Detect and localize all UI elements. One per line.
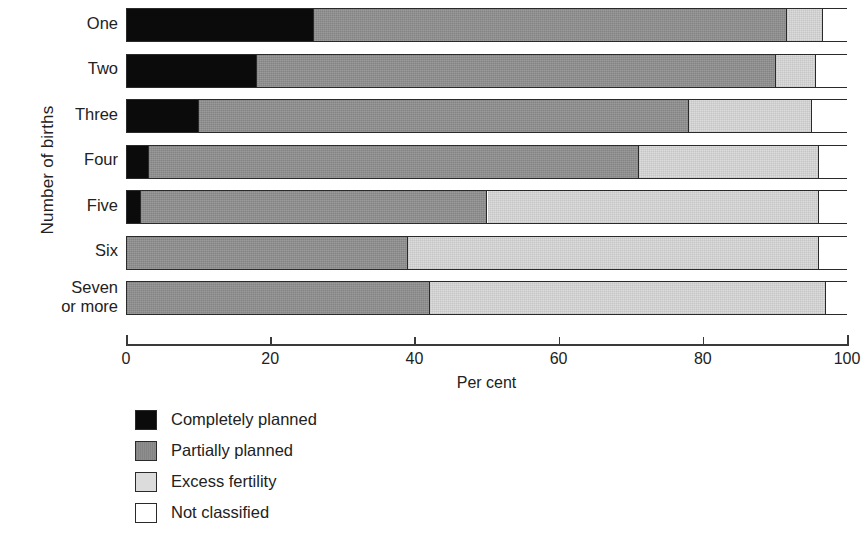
bar-segment-partially-planned	[314, 9, 786, 41]
x-axis-line	[126, 344, 847, 346]
legend-item: Partially planned	[135, 435, 317, 466]
y-axis-label-two: Two	[0, 60, 118, 78]
x-tick-label-40: 40	[405, 350, 423, 368]
legend-label: Completely planned	[171, 410, 317, 429]
legend-item: Not classified	[135, 497, 317, 528]
bar-row	[126, 99, 847, 133]
bar-row	[126, 145, 847, 179]
bar-segment-partially-planned	[141, 191, 487, 223]
plot-area	[126, 8, 847, 328]
stacked-bar	[126, 145, 847, 179]
bar-segment-excess-fertility	[488, 191, 820, 223]
bar-row	[126, 190, 847, 224]
bar-segment-completely-planned	[127, 191, 141, 223]
legend-label: Partially planned	[171, 441, 293, 460]
x-tick-label-80: 80	[694, 350, 712, 368]
bar-row	[126, 54, 847, 88]
stacked-bar	[126, 8, 847, 42]
bar-segment-not-classified	[816, 55, 848, 87]
bar-segment-partially-planned	[127, 237, 408, 269]
y-axis-label-three: Three	[0, 106, 118, 124]
legend-item: Excess fertility	[135, 466, 317, 497]
stacked-bar	[126, 54, 847, 88]
legend-label: Excess fertility	[171, 472, 276, 491]
stacked-bar	[126, 99, 847, 133]
legend-swatch-partially	[135, 441, 157, 461]
x-tick-label-60: 60	[550, 350, 568, 368]
bar-segment-not-classified	[819, 146, 848, 178]
bar-segment-excess-fertility	[689, 100, 812, 132]
bar-segment-not-classified	[826, 282, 848, 314]
bar-segment-not-classified	[823, 9, 848, 41]
legend-swatch-completely	[135, 410, 157, 430]
x-tick-0	[126, 335, 128, 346]
bar-segment-excess-fertility	[787, 9, 823, 41]
bar-segment-excess-fertility	[639, 146, 819, 178]
legend-swatch-notclass	[135, 503, 157, 523]
stacked-bar-chart: Number of births OneTwoThreeFourFiveSixS…	[0, 0, 868, 550]
bar-segment-excess-fertility	[430, 282, 827, 314]
bar-row	[126, 8, 847, 42]
bar-row	[126, 236, 847, 270]
x-tick-label-20: 20	[261, 350, 279, 368]
y-axis-label-one: One	[0, 15, 118, 33]
bar-segment-partially-planned	[149, 146, 639, 178]
stacked-bar	[126, 281, 847, 315]
y-axis-label-seven-or-more: Sevenor more	[0, 278, 118, 316]
y-axis-label-six: Six	[0, 242, 118, 260]
x-tick-100	[847, 335, 849, 346]
legend-item: Completely planned	[135, 404, 317, 435]
bar-segment-excess-fertility	[776, 55, 816, 87]
x-tick-label-100: 100	[834, 350, 861, 368]
x-axis-title: Per cent	[126, 374, 847, 392]
y-axis-label-five: Five	[0, 197, 118, 215]
stacked-bar	[126, 190, 847, 224]
bar-segment-completely-planned	[127, 146, 149, 178]
bar-segment-excess-fertility	[408, 237, 819, 269]
legend-label: Not classified	[171, 503, 269, 522]
bar-segment-partially-planned	[257, 55, 776, 87]
bar-segment-partially-planned	[199, 100, 689, 132]
bar-segment-not-classified	[819, 237, 848, 269]
x-tick-20	[270, 337, 272, 346]
bar-segment-not-classified	[819, 191, 848, 223]
stacked-bar	[126, 236, 847, 270]
x-tick-40	[414, 337, 416, 346]
legend-swatch-excess	[135, 472, 157, 492]
legend: Completely plannedPartially plannedExces…	[135, 404, 317, 528]
bar-segment-completely-planned	[127, 55, 257, 87]
bar-segment-completely-planned	[127, 100, 199, 132]
bar-segment-partially-planned	[127, 282, 430, 314]
bar-row	[126, 281, 847, 315]
x-tick-80	[703, 337, 705, 346]
x-tick-label-0: 0	[122, 350, 131, 368]
y-axis-label-four: Four	[0, 151, 118, 169]
bar-segment-completely-planned	[127, 9, 314, 41]
x-tick-60	[559, 337, 561, 346]
bar-segment-not-classified	[812, 100, 848, 132]
